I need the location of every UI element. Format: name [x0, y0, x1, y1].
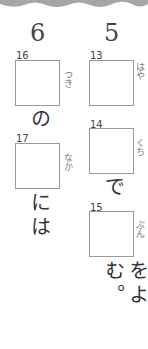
ruby-16: つき [64, 70, 74, 88]
ruby-15: ぶん [136, 220, 146, 238]
answer-box-15[interactable] [89, 211, 134, 257]
ruby-13: はや [136, 62, 146, 80]
ruby-14: くち [136, 138, 146, 156]
column-number-5: 5 [104, 20, 119, 46]
answer-box-14[interactable] [89, 128, 134, 174]
text-after-17: には [27, 192, 51, 240]
text-after-16: の [27, 108, 51, 132]
text-after-15: をよむ。 [101, 260, 148, 349]
text-after-14: で [101, 176, 125, 200]
column-number-6: 6 [30, 20, 45, 46]
answer-box-16[interactable] [15, 60, 60, 106]
wavy-header-band [0, 0, 148, 12]
answer-box-13[interactable] [89, 60, 134, 106]
ruby-17: なか [64, 153, 74, 171]
answer-box-17[interactable] [15, 143, 60, 189]
